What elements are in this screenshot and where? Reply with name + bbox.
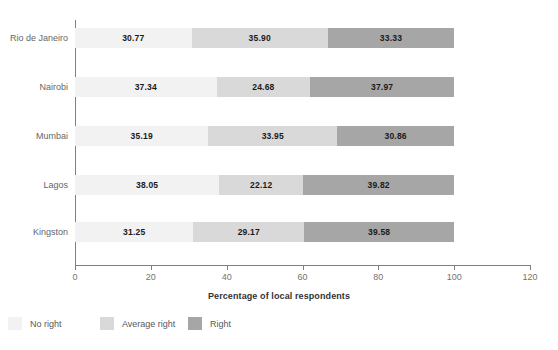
stacked-bar-chart: Rio de JaneiroNairobiMumbaiLagosKingston… [0, 0, 558, 350]
x-axis-tick [75, 265, 76, 270]
y-axis-category-label: Mumbai [0, 131, 68, 141]
bar-segment[interactable]: 38.05 [75, 175, 219, 195]
legend-label: Right [210, 319, 231, 329]
bar-segment[interactable]: 33.33 [328, 28, 454, 48]
x-axis-tick [378, 265, 379, 270]
bar-segment[interactable]: 33.95 [208, 126, 337, 146]
legend-label: No right [30, 319, 62, 329]
y-axis-category-label: Rio de Janeiro [0, 33, 68, 43]
bar-segment[interactable]: 37.34 [75, 77, 217, 97]
x-axis-tick-label: 80 [373, 272, 383, 282]
x-axis-tick-label: 20 [146, 272, 156, 282]
legend-item[interactable]: Average right [100, 317, 175, 330]
legend-item[interactable]: Right [188, 317, 231, 330]
x-axis-tick-label: 0 [72, 272, 77, 282]
y-axis-category-label: Lagos [0, 180, 68, 190]
x-axis-tick [151, 265, 152, 270]
x-axis-tick [303, 265, 304, 270]
bar-segment[interactable]: 31.25 [75, 222, 193, 242]
x-axis-tick-label: 100 [447, 272, 462, 282]
legend-swatch-icon [188, 317, 202, 330]
legend-swatch-icon [100, 317, 114, 330]
y-axis-category-label: Kingston [0, 227, 68, 237]
x-axis-tick-label: 120 [522, 272, 537, 282]
legend-swatch-icon [8, 317, 22, 330]
bar-segment[interactable]: 35.90 [192, 28, 328, 48]
bar-segment[interactable]: 22.12 [219, 175, 303, 195]
bar-segment[interactable]: 39.58 [304, 222, 454, 242]
bar-segment[interactable]: 30.77 [75, 28, 192, 48]
x-axis-tick-label: 60 [297, 272, 307, 282]
x-axis-tick-label: 40 [222, 272, 232, 282]
bar-segment[interactable]: 29.17 [193, 222, 304, 242]
legend-item[interactable]: No right [8, 317, 62, 330]
x-axis-tick [530, 265, 531, 270]
legend-label: Average right [122, 319, 175, 329]
x-axis-tick [227, 265, 228, 270]
x-axis-title: Percentage of local respondents [0, 291, 558, 301]
y-axis-category-label: Nairobi [0, 82, 68, 92]
bar-segment[interactable]: 37.97 [310, 77, 454, 97]
plot-area: 30.7735.9033.3337.3424.6837.9735.1933.95… [75, 20, 530, 265]
bar-segment[interactable]: 35.19 [75, 126, 208, 146]
bar-segment[interactable]: 30.86 [337, 126, 454, 146]
bar-segment[interactable]: 24.68 [217, 77, 311, 97]
x-axis-tick [454, 265, 455, 270]
bar-segment[interactable]: 39.82 [303, 175, 454, 195]
